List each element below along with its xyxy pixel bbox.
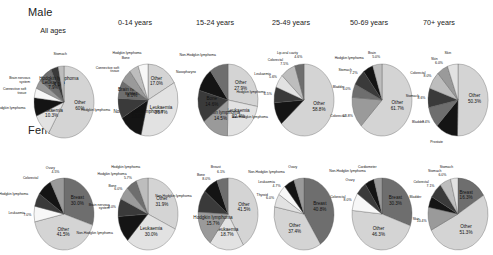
slice-name-label: Hodgkin lymphoma	[81, 108, 110, 112]
slice-name-label: Bone	[108, 184, 116, 188]
slice-value-label: 5.7%	[124, 176, 132, 180]
slice-value-label: 8.0%	[202, 177, 210, 181]
slice-name-label: Ovary	[346, 178, 355, 182]
slice-value-label: 13.0%	[132, 114, 145, 119]
slice-name-label: Other	[151, 76, 163, 81]
slice-name-label: Hodgkin lymphoma	[112, 51, 141, 55]
slice-name-label: Bone	[197, 173, 205, 177]
slice-name-label: Bladder	[412, 120, 425, 124]
slice-value-label: 46.3%	[372, 232, 385, 237]
slice-value-label: 7.2%	[350, 71, 358, 75]
slice-name-label: Bladder	[333, 85, 346, 89]
slice-name-label: Bone	[206, 96, 217, 101]
slice-name-label: Hodgkin lymphoma	[236, 90, 265, 94]
column-header-25-49: 25-49 years	[252, 18, 330, 27]
slice-value-label: 4.6%	[294, 55, 302, 59]
slice-name-label: Breast	[459, 190, 473, 195]
pie-male-70plus: 50.3%OtherProstate9.4%Bladder8.6%Stomach…	[402, 38, 493, 168]
slice-name-label: Hodgkin lymphoma	[335, 56, 364, 60]
slice-value-label: 4.5%	[52, 170, 60, 174]
slice-name-label: Leukaemia	[8, 211, 25, 215]
slice-name-label: Other	[289, 223, 301, 228]
slice-value-label: 14.5%	[214, 116, 227, 121]
slice-value-label: 10.3%	[45, 113, 58, 118]
pie-svg: 50.3%OtherProstate9.4%Bladder8.6%Stomach…	[402, 38, 493, 168]
slice-value-label: 7.1%	[427, 184, 435, 188]
slice-name-label: Non-Hodgkin lymphoma	[248, 170, 284, 174]
slice-name-label: Non-Hodgkin lymphoma	[180, 53, 216, 57]
slice-name-label: Hodgkin lymphoma	[193, 215, 233, 220]
slice-value-label: 51.3%	[459, 230, 472, 235]
slice-name-label: Lip-oral cavity	[277, 51, 298, 55]
slice-name-label: Leukaemia	[140, 226, 163, 231]
slice-value-label: 37.4%	[288, 229, 301, 234]
column-header-0-14: 0-14 years	[96, 18, 174, 27]
slice-name-label: Leukaemia	[254, 72, 271, 76]
slice-name-label: Non-Hodgkin lymphoma	[155, 194, 191, 198]
slice-name-label: Stomach	[406, 94, 419, 98]
slice-value-label: 14.6%	[205, 102, 218, 107]
slice-value-label: 30.0%	[71, 201, 84, 206]
slice-value-label: 6.1%	[217, 170, 225, 174]
slice-value-label: 6.0%	[435, 61, 443, 65]
slice-name-label: Brain nervoussystem	[9, 76, 30, 84]
slice-value-label: 30.3%	[389, 201, 402, 206]
slice-name-label: Hodgkin lymphoma	[111, 165, 140, 169]
slice-name-label: Colorectal	[413, 180, 429, 184]
slice-name-label: Other	[373, 226, 385, 231]
slice-name-label: Other	[74, 100, 86, 105]
column-header-50-69: 50-69 years	[330, 18, 408, 27]
slice-name-label: Colorectal	[330, 114, 346, 118]
pie-female-70plus: 16.3%Breast51.3%Other10.4%SkinBladder7.1…	[402, 152, 493, 255]
slice-value-label: 4.7%	[273, 184, 281, 188]
slice-name-label: Stomach	[428, 169, 441, 173]
slice-name-label: Hodgkin lymphoma	[39, 76, 79, 81]
slice-name-label: Other	[460, 224, 472, 229]
slice-name-label: Leukaemia	[258, 180, 275, 184]
slice-name-label: Colorectal	[330, 195, 346, 199]
slice-name-label: Nasopharynx	[176, 70, 196, 74]
slice-name-label: Hodgkin lymphoma	[98, 172, 127, 176]
slice-name-label: Ovary	[46, 166, 55, 170]
slice-name-label: Other	[469, 93, 481, 98]
slice-name-label: Stomach	[440, 165, 453, 169]
slice-name-label: Stomach	[338, 68, 351, 72]
slice-value-label: 41.5%	[57, 232, 70, 237]
slice-name-label: Stomach	[54, 52, 67, 56]
slice-name-label: Bladder	[410, 195, 423, 199]
slice-value-label: 6.0%	[438, 173, 446, 177]
slice-name-label: Colorectal	[23, 176, 39, 180]
column-header-15-24: 15-24 years	[176, 18, 254, 27]
slice-value-label: 7.5%	[280, 62, 288, 66]
slice-name-label: Non-Hodgkin lymphoma	[329, 169, 365, 173]
slice-value-label: 15.7%	[206, 221, 219, 226]
column-header-all-ages: All ages	[14, 26, 92, 35]
slice-name-label: Ovary	[288, 165, 297, 169]
slice-name-label: Breast	[389, 195, 403, 200]
slice-name-label: Brain nervoussystem	[89, 203, 110, 211]
slice-value-label: 40.8%	[313, 207, 326, 212]
slice-name-label: Non-Hodgkin lymphoma	[0, 106, 26, 110]
slice-name-label: Non-Hodgkin lymphoma	[0, 192, 28, 196]
slice-name-label: Non-Hodgkin lymphoma	[76, 231, 112, 235]
slice-name-label: Skin	[444, 51, 451, 55]
slice-name-label: Connective softtissue	[96, 66, 119, 74]
row-label-male: Male	[28, 6, 53, 18]
slice-name-label: Colorectal	[410, 71, 426, 75]
slice-name-label: Cardiometer	[358, 165, 378, 169]
slice-name-label: Skin	[431, 57, 438, 61]
slice-value-label: 5.0%	[372, 55, 380, 59]
pie-svg: 16.3%Breast51.3%Other10.4%SkinBladder7.1…	[402, 152, 493, 255]
slice-value-label: 18.7%	[221, 232, 234, 237]
column-header-70plus: 70+ years	[404, 18, 474, 27]
slice-name-label: Colorectal	[268, 58, 284, 62]
slice-name-label: Thyroid	[257, 193, 268, 197]
slice-name-label: Bone	[122, 56, 130, 60]
slice-name-label: Connective softtissue	[3, 87, 26, 95]
slice-name-label: Other	[235, 80, 247, 85]
slice-value-label: 50.3%	[468, 99, 481, 104]
slice-name-label: Brain	[368, 51, 376, 55]
slice-name-label: Other	[57, 227, 69, 232]
slice-value-label: 30.0%	[145, 232, 158, 237]
